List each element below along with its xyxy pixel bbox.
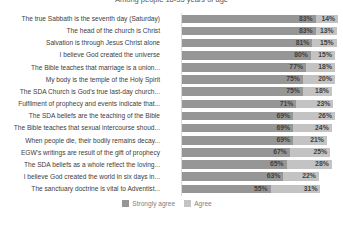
category-label: EGW's writings are result of the gift of… xyxy=(0,147,162,159)
bar-group: 71%23% xyxy=(182,100,343,109)
value-label-agree: 15% xyxy=(311,51,332,60)
chart-row: The Bible teaches that marriage is a uni… xyxy=(0,62,343,74)
category-label: The SDA beliefs as a whole reflect the l… xyxy=(0,159,162,171)
legend-label-strongly-agree: Strongly agree xyxy=(132,200,175,207)
legend-swatch-strongly-agree xyxy=(122,200,129,207)
stacked-bar-chart: Among people 18-35 years of age The true… xyxy=(0,0,343,225)
value-label-strongly-agree: 71% xyxy=(182,100,293,109)
bar-group: 67%25% xyxy=(182,148,343,157)
bar-group: 75%20% xyxy=(182,75,343,84)
value-label-strongly-agree: 75% xyxy=(182,75,300,84)
bar-group: 69%21% xyxy=(182,136,343,145)
bar-group: 65%28% xyxy=(182,160,343,169)
chart-row: The Bible teaches that sexual intercours… xyxy=(0,122,343,134)
chart-row: Fulfilment of prophecy and events indica… xyxy=(0,98,343,110)
chart-row: The sanctuary doctrine is vital to Adven… xyxy=(0,183,343,195)
chart-row: I believe God created the world in six d… xyxy=(0,171,343,183)
bar-group: 69%24% xyxy=(182,124,343,133)
value-label-agree: 20% xyxy=(303,75,332,84)
bar-group: 83%13% xyxy=(182,27,343,36)
bar-group: 63%22% xyxy=(182,172,343,181)
value-label-strongly-agree: 75% xyxy=(182,87,300,96)
chart-row: The SDA Church is God's true last-day ch… xyxy=(0,86,343,98)
value-label-strongly-agree: 55% xyxy=(182,185,268,194)
value-label-agree: 22% xyxy=(283,172,315,181)
category-label: Salvation is through Jesus Christ alone xyxy=(0,37,162,49)
value-label-strongly-agree: 83% xyxy=(182,27,313,36)
category-label: The sanctuary doctrine is vital to Adven… xyxy=(0,183,162,195)
plot-area: The true Sabbath is the seventh day (Sat… xyxy=(0,13,343,195)
value-label-agree: 26% xyxy=(293,112,332,121)
chart-row: My body is the temple of the Holy Spirit… xyxy=(0,74,343,86)
category-label: The SDA beliefs are the teaching of the … xyxy=(0,110,162,122)
category-label: The Bible teaches that sexual intercours… xyxy=(0,122,162,134)
chart-row: Salvation is through Jesus Christ alone8… xyxy=(0,37,343,49)
legend-swatch-agree xyxy=(184,200,191,207)
category-label: The SDA Church is God's true last-day ch… xyxy=(0,86,162,98)
value-label-agree: 25% xyxy=(290,148,327,157)
value-label-strongly-agree: 77% xyxy=(182,63,303,72)
category-label: The head of the church is Christ xyxy=(0,25,162,37)
chart-row: EGW's writings are result of the gift of… xyxy=(0,147,343,159)
value-label-strongly-agree: 80% xyxy=(182,51,308,60)
bar-group: 83%14% xyxy=(182,15,343,24)
category-label: I believe God created the world in six d… xyxy=(0,171,162,183)
chart-row: The true Sabbath is the seventh day (Sat… xyxy=(0,13,343,25)
value-label-strongly-agree: 63% xyxy=(182,172,280,181)
chart-row: The head of the church is Christ83%13% xyxy=(0,25,343,37)
bar-group: 81%15% xyxy=(182,39,343,48)
category-label: I believe God created the universe xyxy=(0,49,162,61)
bar-group: 80%15% xyxy=(182,51,343,60)
value-label-agree: 23% xyxy=(296,100,330,109)
value-label-strongly-agree: 81% xyxy=(182,39,309,48)
value-label-agree: 13% xyxy=(316,27,334,36)
chart-title: Among people 18-35 years of age xyxy=(0,0,343,4)
legend-label-agree: Agree xyxy=(194,200,212,207)
value-label-strongly-agree: 69% xyxy=(182,136,290,145)
chart-row: When people die, their bodily remains de… xyxy=(0,135,343,147)
bar-group: 69%26% xyxy=(182,112,343,121)
category-label: The Bible teaches that marriage is a uni… xyxy=(0,62,162,74)
value-label-agree: 28% xyxy=(287,160,329,169)
category-label: Fulfilment of prophecy and events indica… xyxy=(0,98,162,110)
value-label-agree: 18% xyxy=(303,87,329,96)
bar-group: 55%31% xyxy=(182,185,343,194)
value-label-strongly-agree: 69% xyxy=(182,112,290,121)
category-label: My body is the temple of the Holy Spirit xyxy=(0,74,162,86)
value-label-strongly-agree: 69% xyxy=(182,124,290,133)
value-label-strongly-agree: 65% xyxy=(182,160,284,169)
chart-row: The SDA beliefs as a whole reflect the l… xyxy=(0,159,343,171)
chart-row: The SDA beliefs are the teaching of the … xyxy=(0,110,343,122)
value-label-strongly-agree: 83% xyxy=(182,15,313,24)
category-label: The true Sabbath is the seventh day (Sat… xyxy=(0,13,162,25)
value-label-agree: 21% xyxy=(293,136,324,145)
value-label-strongly-agree: 67% xyxy=(182,148,287,157)
bar-group: 75%18% xyxy=(182,87,343,96)
value-label-agree: 18% xyxy=(306,63,332,72)
chart-row: I believe God created the universe80%15% xyxy=(0,49,343,61)
value-label-agree: 24% xyxy=(293,124,329,133)
category-label: When people die, their bodily remains de… xyxy=(0,135,162,147)
value-label-agree: 31% xyxy=(271,185,318,194)
value-label-agree: 15% xyxy=(312,39,333,48)
bar-group: 77%18% xyxy=(182,63,343,72)
chart-legend: Strongly agreeAgree xyxy=(0,200,343,207)
value-label-agree: 14% xyxy=(316,15,336,24)
